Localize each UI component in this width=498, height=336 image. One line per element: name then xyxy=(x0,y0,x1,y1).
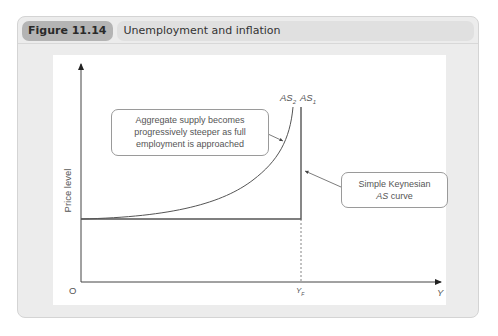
callout-arrow-keynesian xyxy=(305,171,341,187)
callout-steeper-line: progressively steeper as full xyxy=(112,126,268,138)
callout-steeper-line: employment is approached xyxy=(112,138,268,150)
origin-label: O xyxy=(69,285,76,296)
y-axis-label: Price level xyxy=(62,161,73,221)
yf-sub: F xyxy=(301,291,304,297)
chart-area: Aggregate supply becomes progressively s… xyxy=(53,55,446,305)
header-divider xyxy=(18,43,478,44)
figure-frame: Figure 11.14 Unemployment and inflation xyxy=(17,16,479,318)
callout-steeper-line: Aggregate supply becomes xyxy=(112,114,268,126)
figure-title: Unemployment and inflation xyxy=(117,21,475,41)
callout-steeper: Aggregate supply becomes progressively s… xyxy=(111,109,269,156)
callout-keynesian-line2: AS curve xyxy=(342,190,447,202)
as2-sub: 2 xyxy=(293,99,296,105)
curve-word: curve xyxy=(388,191,413,201)
as1-sub: 1 xyxy=(313,99,316,105)
callout-keynesian: Simple Keynesian AS curve xyxy=(341,172,448,208)
as1-main: AS xyxy=(300,92,313,103)
x-axis-label: Y xyxy=(437,287,443,298)
figure-header: Figure 11.14 Unemployment and inflation xyxy=(22,21,474,41)
callout-arrow-steeper xyxy=(268,134,283,141)
as1-label: AS1 xyxy=(300,92,316,105)
as-italic: AS xyxy=(376,191,388,201)
as2-main: AS xyxy=(280,92,293,103)
callout-keynesian-line1: Simple Keynesian xyxy=(342,178,447,190)
figure-number: Figure 11.14 xyxy=(22,21,113,41)
as2-label: AS2 xyxy=(280,92,296,105)
yf-label: YF xyxy=(296,286,304,297)
